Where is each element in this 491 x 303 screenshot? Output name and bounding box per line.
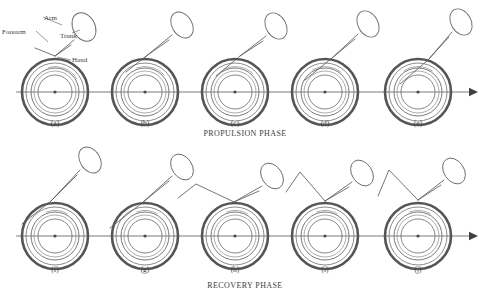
- panel-label-d: (d): [321, 119, 330, 128]
- phase-label-propulsion: PROPULSION PHASE: [203, 129, 286, 138]
- wheel-hub-center: [416, 90, 419, 93]
- annotation-trunk: Trunk: [60, 30, 80, 40]
- wheel-hub-center: [233, 90, 236, 93]
- annotation-label-trunk: Trunk: [60, 32, 77, 40]
- annotation-arm: Arm: [43, 14, 62, 25]
- panel-b: (b): [112, 8, 198, 128]
- panel-f: (f): [22, 143, 106, 274]
- forearm-segment: [178, 184, 234, 202]
- arm-second-line: [332, 39, 355, 58]
- arm-segment: [234, 186, 262, 202]
- wheelchair-propulsion-figure: (a)(b)(c)(d)(e)(f)(g)(h)(i)(j) ArmForear…: [0, 0, 491, 303]
- annotation-label-hand: Hand: [72, 56, 88, 64]
- hand-contact-arc: [136, 67, 164, 76]
- panel-i: (i): [286, 156, 378, 274]
- arm-second-line: [145, 40, 169, 57]
- trunk-ellipse: [260, 9, 291, 43]
- panel-g: (g): [110, 150, 198, 274]
- forearm-segment: [378, 170, 418, 200]
- arm-second-line: [234, 191, 259, 202]
- leader-line-forearm: [36, 31, 48, 42]
- trunk-ellipse: [256, 159, 288, 193]
- panel-row-propulsion: (a)(b)(c)(d)(e): [16, 5, 478, 128]
- arm-second-line: [418, 185, 441, 200]
- arm-second-line: [51, 175, 77, 201]
- arm-second-line: [240, 41, 263, 56]
- trunk-ellipse: [352, 7, 383, 41]
- panel-rows-layer: (a)(b)(c)(d)(e)(f)(g)(h)(i)(j): [16, 5, 478, 274]
- arm-second-line: [325, 187, 349, 201]
- panel-label-i: (i): [321, 265, 329, 274]
- panel-e: (e): [385, 5, 477, 128]
- direction-arrowhead: [469, 88, 478, 96]
- trunk-ellipse: [438, 154, 470, 188]
- forearm-segment: [110, 203, 142, 228]
- panel-label-b: (b): [141, 119, 150, 128]
- trunk-ellipse: [166, 8, 198, 42]
- panel-label-f: (f): [51, 265, 59, 274]
- wheel-hub-center: [416, 234, 419, 237]
- wheel-hub-center: [233, 234, 236, 237]
- phase-label-recovery: RECOVERY PHASE: [207, 281, 282, 290]
- panel-j: (j): [378, 154, 470, 274]
- panel-label-j: (j): [414, 265, 422, 274]
- wheel-hub-center: [323, 90, 326, 93]
- panel-a: (a): [22, 9, 101, 128]
- annotation-label-arm: Arm: [44, 14, 57, 22]
- annotation-label-forearm: Forearm: [2, 28, 26, 36]
- panel-label-a: (a): [51, 119, 60, 128]
- arm-second-line: [55, 45, 71, 56]
- panel-label-h: (h): [231, 265, 240, 274]
- trunk-ellipse: [346, 156, 378, 190]
- direction-arrowhead: [469, 232, 478, 240]
- arm-second-line: [428, 37, 449, 60]
- wheel-hub-center: [143, 90, 146, 93]
- panel-label-c: (c): [231, 119, 240, 128]
- forearm-segment: [35, 48, 55, 56]
- wheel-hub-center: [53, 234, 56, 237]
- panel-c: (c): [202, 9, 292, 128]
- arm-second-line: [142, 181, 169, 203]
- panel-d: (d): [292, 7, 384, 128]
- wheel-hub-center: [323, 234, 326, 237]
- panel-row-recovery: (f)(g)(h)(i)(j): [16, 143, 478, 274]
- annotation-layer: ArmForearmTrunkHand: [2, 14, 88, 64]
- panel-h: (h): [178, 159, 288, 274]
- forearm-segment: [286, 172, 325, 201]
- wheel-hub-center: [143, 234, 146, 237]
- panel-label-e: (e): [414, 119, 423, 128]
- wheel-hub-center: [53, 90, 56, 93]
- annotation-forearm: Forearm: [2, 28, 48, 42]
- panel-label-g: (g): [141, 265, 150, 274]
- trunk-ellipse: [166, 150, 198, 184]
- trunk-ellipse: [74, 143, 106, 177]
